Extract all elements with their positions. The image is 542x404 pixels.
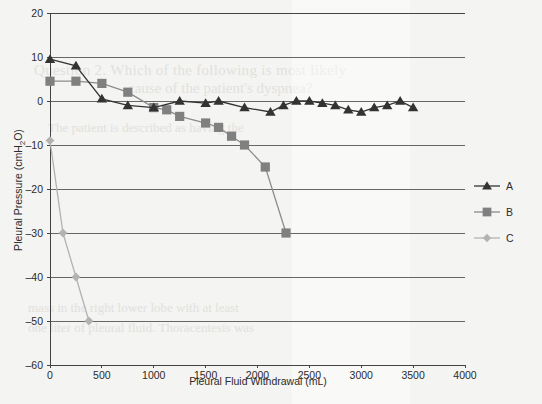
y-tick-label: –30	[25, 227, 43, 239]
marker-square	[97, 79, 106, 88]
x-tick-label: 1000	[142, 369, 166, 381]
marker-diamond	[59, 229, 68, 238]
x-tick-label: 4000	[453, 369, 477, 381]
y-tick-label: –40	[25, 271, 43, 283]
x-tick-label: 3000	[350, 369, 374, 381]
series-line-c	[50, 141, 89, 321]
marker-square	[240, 140, 249, 149]
legend: ABC	[474, 180, 514, 244]
marker-square	[261, 162, 270, 171]
pleural-pressure-chart: 05001000150020002500300035004000 20100–1…	[0, 0, 542, 404]
marker-square	[227, 132, 236, 141]
y-tick-label: –60	[25, 359, 43, 371]
marker-triangle	[408, 103, 418, 112]
legend-label: B	[506, 206, 513, 218]
legend-item-b[interactable]: B	[474, 206, 513, 218]
y-tick-label: 20	[31, 7, 43, 19]
legend-label: C	[506, 232, 514, 244]
series-c	[46, 136, 94, 325]
marker-square	[483, 208, 492, 217]
marker-triangle	[174, 96, 184, 105]
y-axis-title-pre: Pleural Pressure (cmH	[12, 145, 24, 251]
marker-diamond	[72, 273, 81, 282]
marker-square	[45, 77, 54, 86]
x-tick-label: 500	[93, 369, 111, 381]
y-tick-label: 10	[31, 51, 43, 63]
y-axis-title-post: O)	[12, 129, 24, 141]
marker-square	[123, 88, 132, 97]
marker-square	[214, 123, 223, 132]
x-tick-label: 0	[47, 369, 53, 381]
marker-square	[201, 118, 210, 127]
y-tick-label: 0	[37, 95, 43, 107]
marker-square	[71, 77, 80, 86]
marker-square	[175, 112, 184, 121]
data-series	[45, 54, 419, 325]
y-tick-label: –50	[25, 315, 43, 327]
marker-square	[281, 228, 290, 237]
marker-triangle	[45, 54, 55, 63]
marker-triangle	[213, 96, 223, 105]
figure-container: Question 2. Which of the following is mo…	[0, 0, 542, 404]
marker-diamond	[483, 234, 491, 242]
y-tick-label: –10	[25, 139, 43, 151]
legend-item-a[interactable]: A	[474, 180, 513, 192]
marker-triangle	[395, 96, 405, 105]
marker-diamond	[46, 136, 55, 145]
marker-diamond	[85, 317, 94, 326]
gridlines	[50, 57, 465, 321]
y-tick-label: –20	[25, 183, 43, 195]
legend-item-c[interactable]: C	[474, 232, 514, 244]
legend-label: A	[506, 180, 513, 192]
x-axis-title: Pleural Fluid Withdrawal (mL)	[189, 375, 327, 387]
marker-square	[162, 105, 171, 114]
x-tick-label: 3500	[401, 369, 425, 381]
